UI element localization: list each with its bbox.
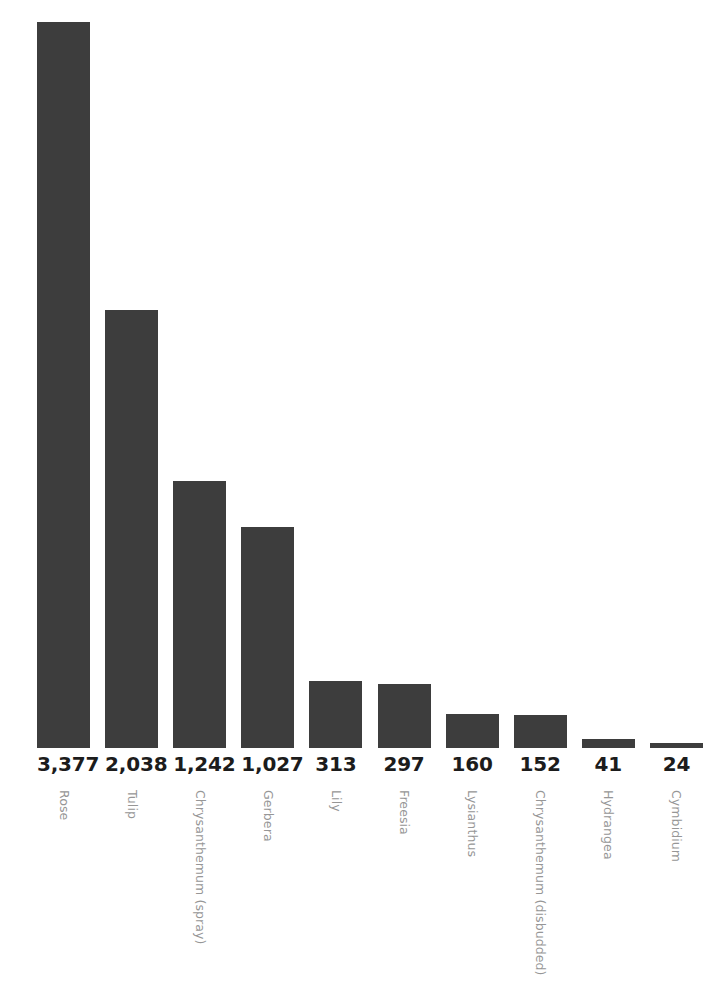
bar-value-label: 160 [446,752,499,776]
bar[interactable] [241,527,294,748]
bar-value-label: 297 [378,752,431,776]
bar-column [105,0,158,748]
bar-column [514,0,567,748]
bar-value-label: 313 [309,752,362,776]
bar[interactable] [582,739,635,748]
bar-value-label: 41 [582,752,635,776]
category-axis-tick-label: Chrysanthemum (disbudded) [533,790,548,976]
bar-chart: 3,377 2,038 1,242 1,027 313 297 160 152 … [0,0,726,996]
bar[interactable] [378,684,431,748]
category-axis-tick: Chrysanthemum (spray) [173,790,226,996]
bar[interactable] [446,714,499,748]
bar[interactable] [173,481,226,748]
bar-column [446,0,499,748]
bar-column [37,0,90,748]
bar-value-label: 3,377 [37,752,90,776]
category-axis-labels: Rose Tulip Chrysanthemum (spray) Gerbera… [0,790,726,996]
bar-column [173,0,226,748]
bar-column [309,0,362,748]
bar[interactable] [309,681,362,748]
category-axis-tick-label: Lysianthus [465,790,480,857]
bar-value-label: 1,027 [241,752,294,776]
plot-area [0,0,726,748]
bar-column [241,0,294,748]
category-axis-tick: Gerbera [241,790,294,996]
category-axis-tick: Lysianthus [446,790,499,996]
category-axis-tick: Lily [309,790,362,996]
category-axis-tick: Cymbidium [650,790,703,996]
bar[interactable] [37,22,90,748]
bar-value-label: 152 [514,752,567,776]
category-axis-tick-label: Hydrangea [601,790,616,860]
category-axis-tick-label: Rose [56,790,71,820]
bar[interactable] [514,715,567,748]
bar-value-label: 2,038 [105,752,158,776]
value-labels: 3,377 2,038 1,242 1,027 313 297 160 152 … [0,748,726,788]
bar-value-label: 1,242 [173,752,226,776]
category-axis-tick-label: Gerbera [260,790,275,842]
category-axis-tick: Hydrangea [582,790,635,996]
category-axis-tick: Rose [37,790,90,996]
category-axis-tick: Tulip [105,790,158,996]
category-axis-tick-label: Lily [328,790,343,812]
category-axis-tick-label: Chrysanthemum (spray) [192,790,207,945]
bar-column [378,0,431,748]
bar[interactable] [105,310,158,748]
category-axis-tick-label: Freesia [397,790,412,835]
category-axis-tick: Chrysanthemum (disbudded) [514,790,567,996]
bar-column [582,0,635,748]
bar-value-label: 24 [650,752,703,776]
category-axis-tick-label: Cymbidium [669,790,684,862]
category-axis-tick: Freesia [378,790,431,996]
category-axis-tick-label: Tulip [124,790,139,819]
bar-column [650,0,703,748]
